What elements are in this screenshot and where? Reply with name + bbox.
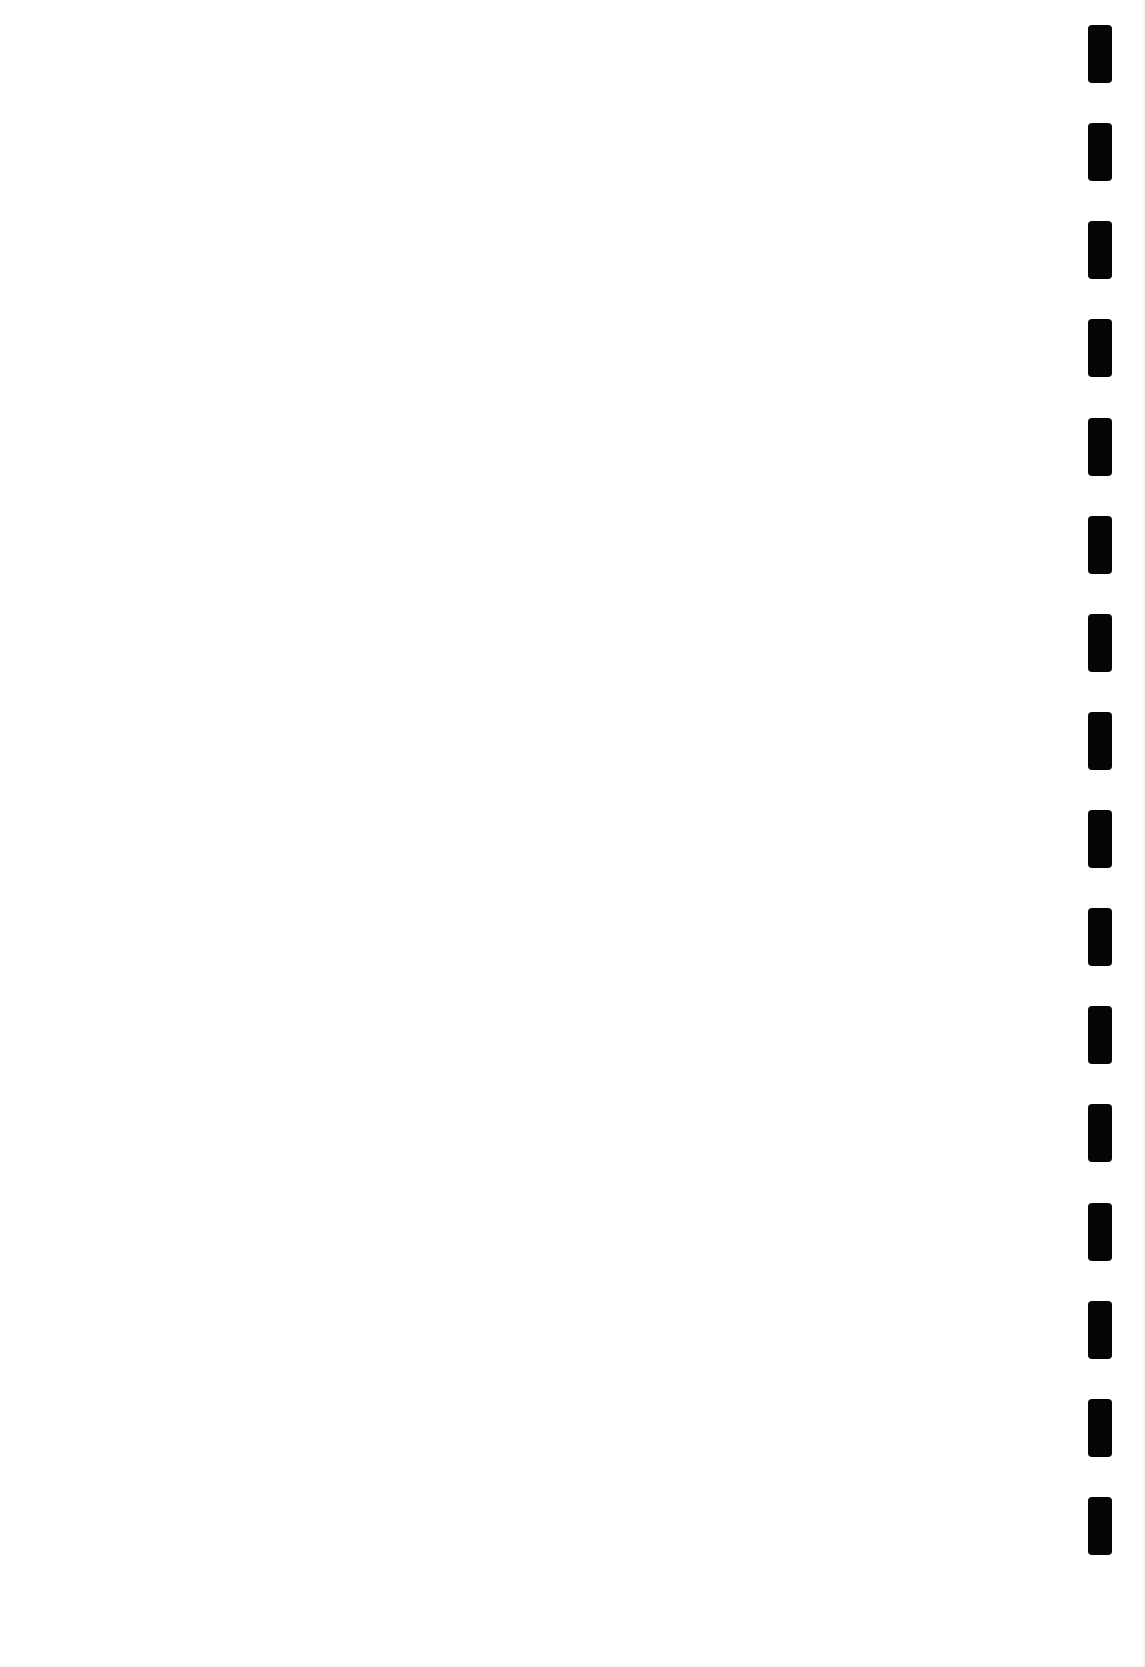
- binding-hole-mark: [1088, 810, 1112, 868]
- binding-hole-mark: [1088, 319, 1112, 377]
- binding-hole-mark: [1088, 1104, 1112, 1162]
- binding-hole-mark: [1088, 1301, 1112, 1359]
- binding-hole-mark: [1088, 712, 1112, 770]
- binding-hole-mark: [1088, 1497, 1112, 1555]
- blank-scanned-page: [0, 0, 1145, 1667]
- binding-hole-mark: [1088, 516, 1112, 574]
- binding-hole-mark: [1088, 123, 1112, 181]
- binding-hole-mark: [1088, 1203, 1112, 1261]
- binding-hole-mark: [1088, 614, 1112, 672]
- page-edge: [1141, 0, 1145, 1667]
- binding-hole-mark: [1088, 25, 1112, 83]
- binding-hole-mark: [1088, 1006, 1112, 1064]
- binding-hole-mark: [1088, 1399, 1112, 1457]
- binding-hole-strip: [1086, 0, 1116, 1667]
- binding-hole-mark: [1088, 221, 1112, 279]
- binding-hole-mark: [1088, 418, 1112, 476]
- binding-hole-mark: [1088, 908, 1112, 966]
